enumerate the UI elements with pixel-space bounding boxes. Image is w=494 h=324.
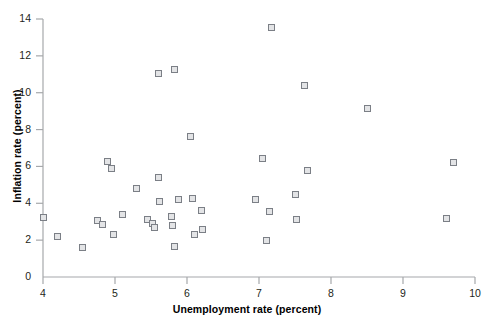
data-point: [268, 24, 275, 31]
data-point: [293, 216, 300, 223]
y-tick-label: 12: [5, 49, 31, 61]
data-point: [259, 155, 266, 162]
data-point: [99, 221, 106, 228]
y-axis-ticks: [36, 19, 43, 240]
data-point: [304, 167, 311, 174]
data-point: [292, 191, 299, 198]
data-point: [301, 82, 308, 89]
data-point: [155, 174, 162, 181]
y-tick-label: 14: [5, 12, 31, 24]
data-point: [189, 195, 196, 202]
data-point: [119, 211, 126, 218]
data-point: [108, 165, 115, 172]
data-point: [151, 224, 158, 231]
data-point: [171, 243, 178, 250]
x-tick-label: 10: [462, 287, 488, 299]
data-point: [175, 196, 182, 203]
data-point: [364, 105, 371, 112]
y-tick-label: 0: [5, 270, 31, 282]
data-point: [169, 222, 176, 229]
data-point: [266, 208, 273, 215]
data-point: [40, 214, 47, 221]
data-point: [199, 226, 206, 233]
data-point: [110, 231, 117, 238]
data-point: [443, 215, 450, 222]
axes-lines: [0, 0, 494, 324]
data-point: [156, 198, 163, 205]
x-tick-label: 4: [30, 287, 56, 299]
y-axis-title: Inflation rate (percent): [11, 66, 23, 226]
data-point: [198, 207, 205, 214]
data-point: [79, 244, 86, 251]
x-tick-label: 5: [102, 287, 128, 299]
x-tick-label: 7: [246, 287, 272, 299]
data-point: [263, 237, 270, 244]
data-point: [133, 185, 140, 192]
x-axis-ticks: [43, 277, 475, 284]
x-tick-label: 9: [390, 287, 416, 299]
data-point: [191, 231, 198, 238]
x-tick-label: 8: [318, 287, 344, 299]
x-axis-title: Unemployment rate (percent): [0, 303, 494, 315]
data-point: [171, 66, 178, 73]
scatter-plot: 0246810121445678910 Inflation rate (perc…: [0, 0, 494, 324]
data-point: [54, 233, 61, 240]
x-tick-label: 6: [174, 287, 200, 299]
data-point: [187, 133, 194, 140]
data-point: [450, 159, 457, 166]
data-point: [155, 70, 162, 77]
y-tick-label: 2: [5, 233, 31, 245]
data-point: [168, 213, 175, 220]
data-point: [252, 196, 259, 203]
